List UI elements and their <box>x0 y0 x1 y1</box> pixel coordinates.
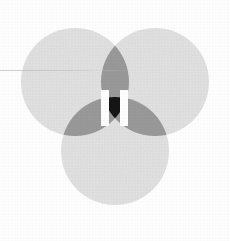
venn-diagram-graphic <box>0 0 230 241</box>
venn-diagram-canvas: Three-circle Venn diagram with pause gly… <box>0 0 230 241</box>
pause-bar-left <box>101 90 109 126</box>
pause-bar-right <box>120 90 128 126</box>
